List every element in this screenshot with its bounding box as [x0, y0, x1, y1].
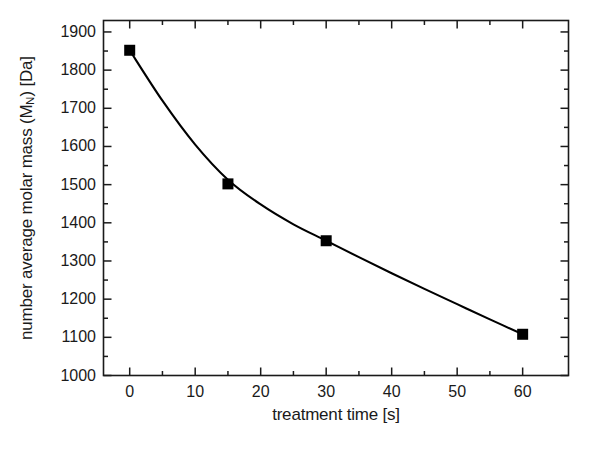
plot-frame — [104, 21, 569, 376]
axis-ticks — [104, 21, 569, 376]
fit-curve-path — [130, 50, 523, 334]
data-point-marker — [517, 329, 528, 340]
data-point-group — [124, 45, 528, 340]
chart-figure: number average molar mass (MN) [Da] trea… — [0, 0, 592, 450]
data-point-marker — [124, 45, 135, 56]
data-point-marker — [222, 178, 233, 189]
plot-area — [0, 0, 592, 450]
data-point-marker — [321, 235, 332, 246]
fit-curve — [130, 50, 523, 334]
